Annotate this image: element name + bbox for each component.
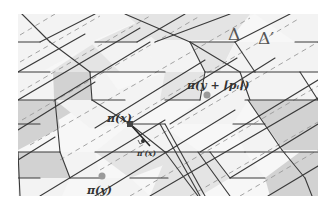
point-pi-y bbox=[99, 173, 106, 180]
point-pi-y-shift bbox=[204, 92, 211, 99]
label-delta: Δ bbox=[228, 24, 240, 44]
label-pi-x: π(x) bbox=[106, 112, 132, 125]
label-delta-prime: Δ′ bbox=[258, 28, 274, 48]
lattice-tiling-diagram: Δ Δ′ π(x) π′(x) π(y) π(y + ⌈pᵢ⌉) bbox=[0, 0, 336, 210]
label-pi-y-shift: π(y + ⌈pᵢ⌉) bbox=[186, 79, 249, 92]
label-pi-prime-x: π′(x) bbox=[136, 149, 156, 158]
point-pi-prime-x bbox=[141, 139, 145, 143]
label-pi-y: π(y) bbox=[86, 184, 112, 197]
